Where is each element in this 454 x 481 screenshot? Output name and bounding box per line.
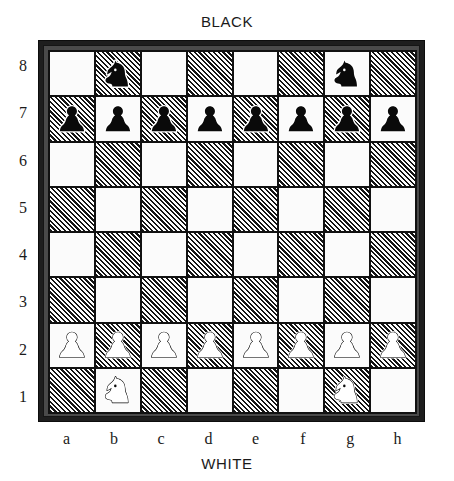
square-b3[interactable]: [96, 278, 140, 321]
white-pawn-icon: [188, 324, 232, 367]
square-e1[interactable]: [234, 369, 278, 412]
square-f8[interactable]: [279, 52, 323, 95]
file-label-a: a: [43, 428, 90, 450]
square-c3[interactable]: [142, 278, 186, 321]
white-pawn-icon: [234, 324, 278, 367]
square-e5[interactable]: [234, 188, 278, 231]
square-a8[interactable]: [50, 52, 94, 95]
white-knight-icon: [96, 369, 140, 412]
square-b5[interactable]: [96, 188, 140, 231]
chess-diagram: BLACK 87654321 abcdefgh WHITE: [0, 0, 454, 481]
black-side-label: BLACK: [0, 13, 454, 30]
square-a2[interactable]: [50, 324, 94, 367]
rank-label-3: 3: [12, 278, 34, 325]
white-pawn-icon: [371, 324, 415, 367]
white-pawn-icon: [50, 324, 94, 367]
square-c8[interactable]: [142, 52, 186, 95]
square-h6[interactable]: [371, 143, 415, 186]
square-a6[interactable]: [50, 143, 94, 186]
square-e4[interactable]: [234, 233, 278, 276]
square-h2[interactable]: [371, 324, 415, 367]
square-d6[interactable]: [188, 143, 232, 186]
black-pawn-icon: [188, 97, 232, 140]
black-pawn-icon: [96, 97, 140, 140]
file-label-c: c: [138, 428, 185, 450]
rank-label-column: 87654321: [12, 42, 34, 420]
square-g2[interactable]: [325, 324, 369, 367]
square-h5[interactable]: [371, 188, 415, 231]
square-h7[interactable]: [371, 97, 415, 140]
square-a7[interactable]: [50, 97, 94, 140]
square-e6[interactable]: [234, 143, 278, 186]
square-b2[interactable]: [96, 324, 140, 367]
black-pawn-icon: [279, 97, 323, 140]
square-f6[interactable]: [279, 143, 323, 186]
white-pawn-icon: [279, 324, 323, 367]
square-b4[interactable]: [96, 233, 140, 276]
white-pawn-icon: [142, 324, 186, 367]
square-c5[interactable]: [142, 188, 186, 231]
square-d2[interactable]: [188, 324, 232, 367]
white-side-label: WHITE: [0, 455, 454, 472]
square-g3[interactable]: [325, 278, 369, 321]
rank-label-2: 2: [12, 326, 34, 373]
rank-label-6: 6: [12, 137, 34, 184]
square-b1[interactable]: [96, 369, 140, 412]
square-a1[interactable]: [50, 369, 94, 412]
square-a5[interactable]: [50, 188, 94, 231]
file-label-e: e: [232, 428, 279, 450]
white-pawn-icon: [325, 324, 369, 367]
square-d5[interactable]: [188, 188, 232, 231]
square-d4[interactable]: [188, 233, 232, 276]
square-a4[interactable]: [50, 233, 94, 276]
square-g1[interactable]: [325, 369, 369, 412]
square-h1[interactable]: [371, 369, 415, 412]
chess-board-grid: [48, 50, 417, 414]
square-b6[interactable]: [96, 143, 140, 186]
rank-label-8: 8: [12, 42, 34, 89]
square-c4[interactable]: [142, 233, 186, 276]
black-pawn-icon: [325, 97, 369, 140]
square-h8[interactable]: [371, 52, 415, 95]
square-c6[interactable]: [142, 143, 186, 186]
chess-board-frame: [38, 40, 425, 422]
file-label-b: b: [90, 428, 137, 450]
square-f4[interactable]: [279, 233, 323, 276]
square-f5[interactable]: [279, 188, 323, 231]
square-h3[interactable]: [371, 278, 415, 321]
square-c1[interactable]: [142, 369, 186, 412]
square-e7[interactable]: [234, 97, 278, 140]
square-d8[interactable]: [188, 52, 232, 95]
square-g6[interactable]: [325, 143, 369, 186]
square-g7[interactable]: [325, 97, 369, 140]
square-d7[interactable]: [188, 97, 232, 140]
square-f2[interactable]: [279, 324, 323, 367]
square-e8[interactable]: [234, 52, 278, 95]
square-g5[interactable]: [325, 188, 369, 231]
square-g8[interactable]: [325, 52, 369, 95]
file-label-g: g: [327, 428, 374, 450]
rank-label-5: 5: [12, 184, 34, 231]
square-c2[interactable]: [142, 324, 186, 367]
square-e2[interactable]: [234, 324, 278, 367]
square-e3[interactable]: [234, 278, 278, 321]
black-pawn-icon: [142, 97, 186, 140]
black-pawn-icon: [234, 97, 278, 140]
rank-label-7: 7: [12, 89, 34, 136]
square-c7[interactable]: [142, 97, 186, 140]
square-g4[interactable]: [325, 233, 369, 276]
square-h4[interactable]: [371, 233, 415, 276]
black-knight-icon: [325, 52, 369, 95]
rank-label-4: 4: [12, 231, 34, 278]
white-knight-icon: [325, 369, 369, 412]
white-pawn-icon: [96, 324, 140, 367]
square-a3[interactable]: [50, 278, 94, 321]
file-label-h: h: [374, 428, 421, 450]
square-f7[interactable]: [279, 97, 323, 140]
square-f3[interactable]: [279, 278, 323, 321]
square-b7[interactable]: [96, 97, 140, 140]
square-d1[interactable]: [188, 369, 232, 412]
square-d3[interactable]: [188, 278, 232, 321]
square-b8[interactable]: [96, 52, 140, 95]
square-f1[interactable]: [279, 369, 323, 412]
